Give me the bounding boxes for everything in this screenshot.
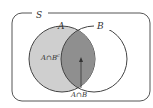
a-only-region-label: A∩Bc (40, 52, 60, 62)
set-a-label: A (57, 21, 65, 31)
set-b-label: B (96, 21, 104, 31)
intersection-label: A∩B (70, 91, 87, 99)
universe-label: S (36, 10, 42, 20)
venn-diagram: S A B A∩Bc A∩B (0, 0, 153, 108)
